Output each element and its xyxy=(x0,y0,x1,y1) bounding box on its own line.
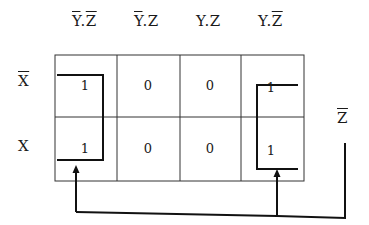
cell-r1-c0: 1 xyxy=(70,141,100,156)
arrow-heads xyxy=(73,165,281,177)
cell-r0-c0: 1 xyxy=(70,78,100,93)
right-arrow-head-icon xyxy=(274,169,281,177)
left-arrow-head-icon xyxy=(73,165,80,173)
cell-r0-c2: 0 xyxy=(195,78,225,93)
cell-r0-c1: 0 xyxy=(133,78,163,93)
kmap-lines xyxy=(0,0,369,225)
kmap-grid xyxy=(55,55,304,181)
cell-r1-c3: 1 xyxy=(256,143,286,158)
cell-r1-c1: 0 xyxy=(133,141,163,156)
cell-r0-c3: 1 xyxy=(256,80,286,95)
cell-r1-c2: 0 xyxy=(195,141,225,156)
